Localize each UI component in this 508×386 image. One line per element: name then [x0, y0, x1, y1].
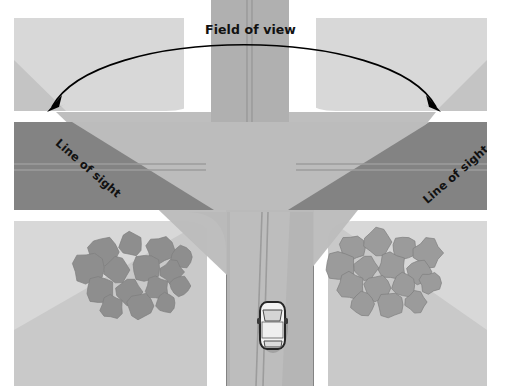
cone-vertical-core	[230, 212, 290, 386]
car-roof	[262, 322, 283, 338]
car-windshield	[263, 310, 282, 321]
intersection-diagram-svg	[0, 0, 487, 386]
car	[257, 301, 288, 353]
car-rear-window	[264, 341, 282, 347]
diagram-canvas: Field of view Line of sight Line of sigh…	[0, 0, 487, 386]
car-mirror-left	[257, 318, 261, 324]
car-mirror-right	[284, 318, 288, 324]
cone-intersection-fill	[214, 122, 288, 210]
road-vertical-top-shade	[211, 0, 289, 122]
figure-page: Field of view Line of sight Line of sigh…	[0, 0, 508, 386]
page-gutter: ◄ T i h t s	[487, 0, 508, 386]
field-of-view-label: Field of view	[205, 22, 296, 37]
